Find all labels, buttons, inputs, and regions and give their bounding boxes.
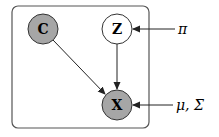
edge-c-to-x xyxy=(53,40,105,94)
node-z: Z xyxy=(102,14,132,44)
node-z-label: Z xyxy=(112,21,122,37)
node-c-label: C xyxy=(37,21,48,37)
param-mu-sigma-label: μ, Σ xyxy=(176,97,204,113)
node-x-label: X xyxy=(112,97,123,113)
graphical-model-diagram: C Z X π μ, Σ xyxy=(0,0,219,137)
node-x: X xyxy=(102,90,132,120)
param-pi-label: π xyxy=(177,21,188,37)
node-c: C xyxy=(28,14,58,44)
